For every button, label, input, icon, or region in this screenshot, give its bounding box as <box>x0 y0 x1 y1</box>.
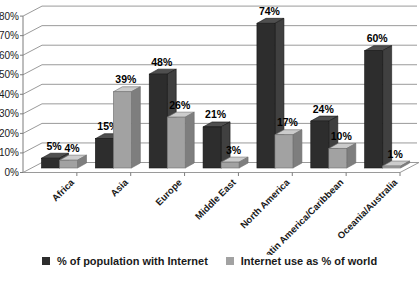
x-axis-category-label: Africa <box>49 176 76 203</box>
x-axis-category-label: North America <box>238 176 292 230</box>
y-axis-tick-label: 70% <box>0 30 19 41</box>
legend-swatch-light-icon <box>226 257 234 265</box>
y-axis-tick-label: 20% <box>0 128 19 139</box>
x-axis-category-label: Oceania/Australia <box>335 176 400 241</box>
data-label: 39% <box>115 73 137 85</box>
chart-figure: 5%4%15%39%48%26%21%3%74%17%24%10%60%1%0%… <box>0 0 419 285</box>
y-axis-tick-label: 30% <box>0 108 19 119</box>
legend-label-internet-use-world: Internet use as % of world <box>241 255 377 267</box>
x-axis-category-label: Middle East <box>193 176 239 222</box>
data-label: 17% <box>277 116 299 128</box>
x-axis-category-label: Europe <box>153 177 184 208</box>
y-axis-tick-label: 10% <box>0 147 19 158</box>
data-label: 5% <box>46 140 62 152</box>
chart-legend: % of population with Internet Internet u… <box>0 255 419 267</box>
data-label: 60% <box>367 32 389 44</box>
y-axis-tick-label: 40% <box>0 89 19 100</box>
x-axis-category-label: Asia <box>108 176 130 198</box>
data-label: 48% <box>151 56 173 68</box>
legend-item-population-with-internet: % of population with Internet <box>42 255 208 267</box>
data-label: 10% <box>331 130 353 142</box>
data-label: 1% <box>388 148 404 160</box>
data-label: 26% <box>169 99 191 111</box>
y-axis-tick-label: 80% <box>0 11 19 22</box>
y-axis-tick-label: 50% <box>0 69 19 80</box>
y-axis-tick-label: 60% <box>0 50 19 61</box>
data-label: 21% <box>205 108 227 120</box>
data-label: 74% <box>259 5 281 17</box>
data-label: 24% <box>313 103 335 115</box>
y-axis-tick-label: 0% <box>5 167 20 178</box>
data-label: 4% <box>64 142 80 154</box>
bar-chart-3d: 5%4%15%39%48%26%21%3%74%17%24%10%60%1%0%… <box>0 0 419 255</box>
legend-item-internet-use-world: Internet use as % of world <box>226 255 377 267</box>
data-label: 3% <box>226 144 242 156</box>
legend-label-population-with-internet: % of population with Internet <box>57 255 208 267</box>
legend-swatch-dark-icon <box>42 257 50 265</box>
